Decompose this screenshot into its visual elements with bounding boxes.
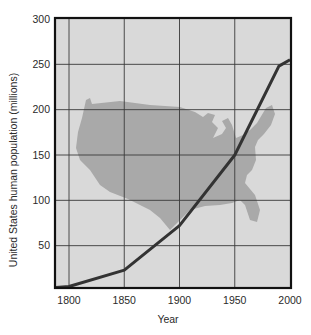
y-axis-label: United States human population (millions… — [7, 73, 19, 267]
y-tick-label-200: 200 — [32, 103, 50, 115]
y-tick-label-300: 300 — [32, 13, 50, 25]
x-tick-label-1900: 1900 — [168, 294, 192, 306]
y-tick-label-50: 50 — [38, 239, 50, 251]
x-tick-label-1800: 1800 — [57, 294, 81, 306]
y-tick-label-250: 250 — [32, 58, 50, 70]
x-tick-label-1850: 1850 — [113, 294, 137, 306]
x-tick-label-2000: 2000 — [278, 294, 302, 306]
y-axis-ticks: 50100150200250300 — [32, 13, 50, 252]
x-axis-label: Year — [157, 313, 179, 325]
population-chart: 18001850190019502000 50100150200250300 Y… — [0, 0, 311, 335]
x-tick-label-1950: 1950 — [223, 294, 247, 306]
y-tick-label-100: 100 — [32, 194, 50, 206]
x-axis-ticks: 18001850190019502000 — [57, 294, 302, 306]
y-tick-label-150: 150 — [32, 149, 50, 161]
